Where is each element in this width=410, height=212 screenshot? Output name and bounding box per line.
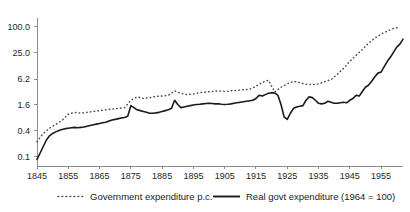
x-axis-tick-label: 1845	[27, 171, 47, 181]
y-axis-tick-label: 0.1	[17, 152, 30, 162]
y-axis-tick-label: 25.0	[12, 48, 30, 58]
x-axis-tick-label: 1915	[246, 171, 266, 181]
government-expenditure-chart: 100.025.06.21.60.40.1 184518551865187518…	[0, 0, 410, 212]
x-axis-tick-label: 1925	[277, 171, 297, 181]
x-axis-tick-label: 1865	[90, 171, 110, 181]
legend-label-government-expenditure-pc: Government expenditure p.c.	[90, 191, 213, 202]
chart-plot-area: 100.025.06.21.60.40.1 184518551865187518…	[0, 0, 410, 212]
x-axis-tick-label: 1945	[340, 171, 360, 181]
x-axis-tick-label: 1895	[183, 171, 203, 181]
x-axis-tick-label: 1935	[309, 171, 329, 181]
y-axis-tick-label: 0.4	[17, 126, 30, 136]
y-axis-tick-label: 100.0	[7, 22, 30, 32]
y-axis-tick-label: 1.6	[17, 100, 30, 110]
x-axis-tick-label: 1905	[215, 171, 235, 181]
y-axis-tick-group: 100.025.06.21.60.40.1	[7, 22, 37, 162]
series-real-govt-expenditure	[37, 39, 403, 159]
chart-legend: Government expenditure p.c. Real govt ex…	[58, 191, 395, 202]
x-axis-tick-label: 1855	[58, 171, 78, 181]
x-axis-tick-label: 1955	[371, 171, 391, 181]
x-axis-tick-label: 1875	[121, 171, 141, 181]
x-axis-tick-label: 1885	[152, 171, 172, 181]
legend-label-real-govt-expenditure: Real govt expenditure (1964 = 100)	[246, 191, 395, 202]
x-axis-tick-group: 1845185518651875188518951905191519251935…	[27, 166, 391, 181]
y-axis-tick-label: 6.2	[17, 74, 30, 84]
